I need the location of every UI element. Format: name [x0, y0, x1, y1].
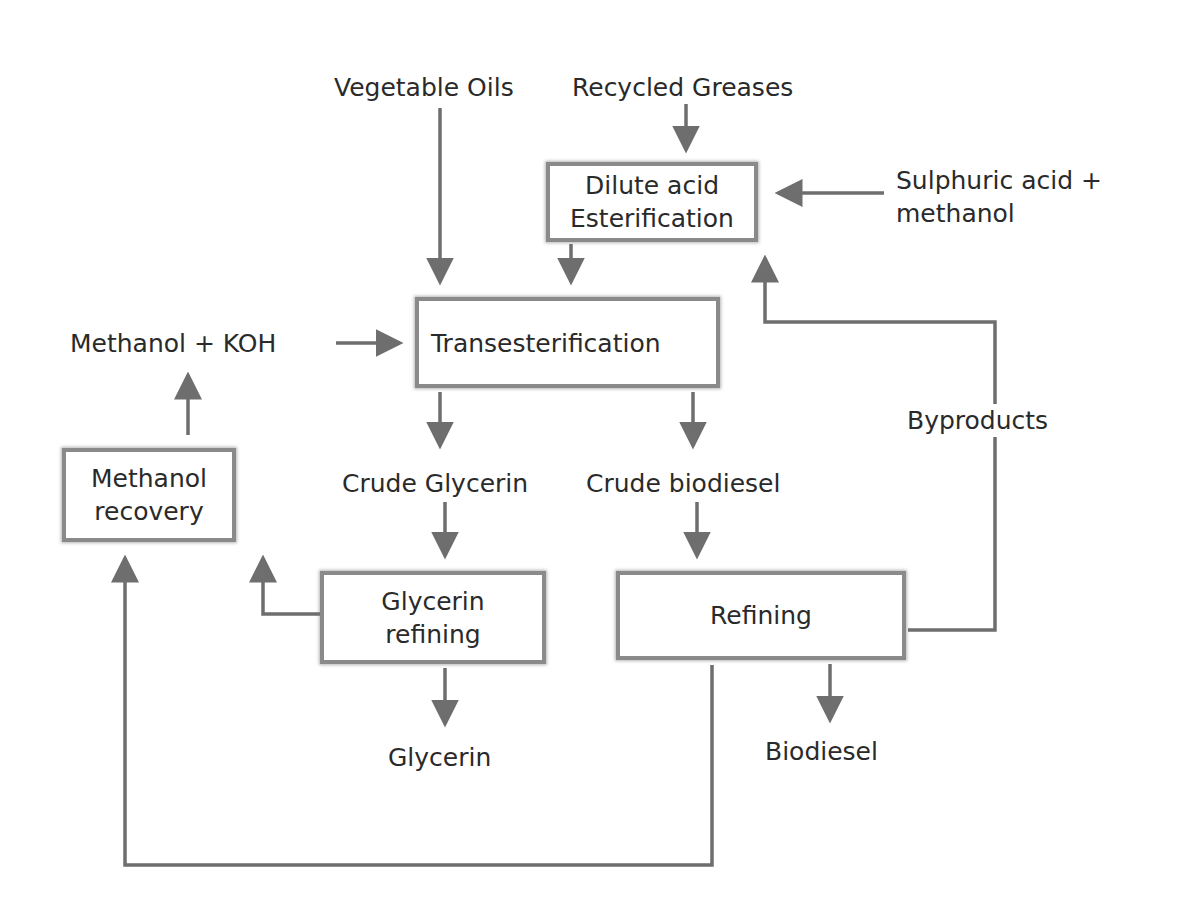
box-refining: Refining — [616, 571, 906, 660]
label-crude-biodiesel: Crude biodiesel — [586, 467, 780, 500]
label-crude-glycerin: Crude Glycerin — [342, 467, 528, 500]
label-byproducts: Byproducts — [907, 404, 1048, 437]
label-methanol-koh: Methanol + KOH — [70, 327, 276, 360]
box-glycerin-refining: Glycerin refining — [320, 571, 546, 664]
esterification-line2: Esterification — [570, 202, 734, 235]
box-dilute-acid-esterification: Dilute acid Esterification — [546, 162, 758, 242]
label-vegetable-oils: Vegetable Oils — [334, 71, 514, 104]
refining-label: Refining — [710, 599, 812, 632]
glycerin-refining-line1: Glycerin — [381, 585, 484, 618]
label-sulphuric-line2: methanol — [896, 197, 1102, 230]
label-recycled-greases: Recycled Greases — [572, 71, 793, 104]
label-sulphuric-acid: Sulphuric acid + methanol — [896, 164, 1102, 230]
label-glycerin: Glycerin — [388, 741, 491, 774]
glycerin-refining-line2: refining — [385, 618, 480, 651]
box-methanol-recovery: Methanol recovery — [62, 448, 236, 542]
methanol-recovery-line2: recovery — [94, 495, 203, 528]
box-transesterification: Transesterification — [415, 297, 720, 388]
esterification-line1: Dilute acid — [585, 169, 719, 202]
arrow-glycerin-refining-to-methanol-recovery — [263, 558, 320, 614]
label-biodiesel: Biodiesel — [765, 735, 878, 768]
methanol-recovery-line1: Methanol — [91, 462, 207, 495]
label-sulphuric-line1: Sulphuric acid + — [896, 164, 1102, 197]
transesterification-label: Transesterification — [431, 327, 661, 360]
